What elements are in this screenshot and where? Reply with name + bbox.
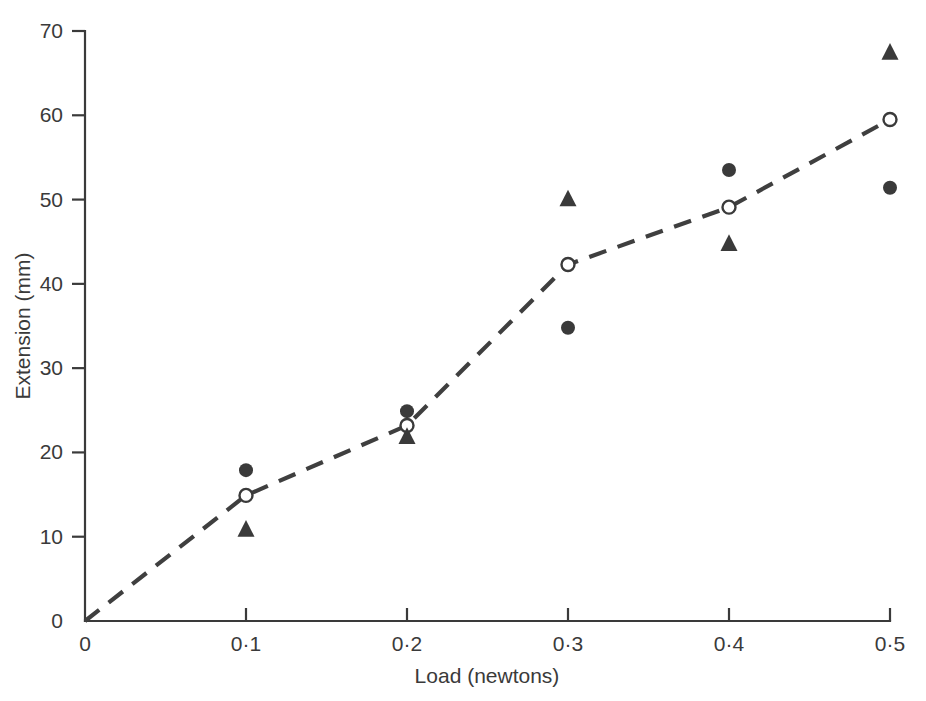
y-tick-labels: 010203040506070 — [40, 19, 63, 632]
data-point-open-circle — [240, 489, 253, 502]
x-tick-label: 0·1 — [231, 632, 261, 655]
x-tick-label: 0·3 — [553, 632, 583, 655]
y-axis-ticks — [72, 31, 85, 537]
y-tick-label: 50 — [40, 188, 63, 211]
y-tick-label: 10 — [40, 525, 63, 548]
data-point-triangle — [238, 520, 255, 537]
data-point-triangle — [721, 234, 738, 251]
data-point-filled-circle — [561, 321, 575, 335]
x-tick-label: 0·2 — [392, 632, 422, 655]
y-tick-label: 40 — [40, 272, 63, 295]
y-tick-label: 0 — [51, 609, 63, 632]
data-point-triangle — [882, 43, 899, 60]
series-dashed-path — [85, 120, 890, 622]
data-point-filled-circle — [400, 404, 414, 418]
x-tick-label: 0·5 — [875, 632, 905, 655]
y-tick-label: 20 — [40, 440, 63, 463]
y-tick-label: 60 — [40, 103, 63, 126]
series-dashed-line — [85, 120, 890, 622]
data-point-open-circle — [562, 258, 575, 271]
data-point-filled-circle — [883, 181, 897, 195]
x-tick-labels: 00·10·20·30·40·5 — [79, 632, 905, 655]
axes-group — [85, 31, 890, 621]
chart-container: 010203040506070 00·10·20·30·40·5 Load (n… — [0, 0, 926, 701]
x-tick-label: 0·4 — [714, 632, 745, 655]
x-axis-ticks — [246, 608, 890, 621]
data-point-filled-circle — [239, 463, 253, 477]
x-axis-title: Load (newtons) — [415, 664, 560, 687]
data-point-triangle — [560, 190, 577, 207]
data-point-open-circle — [884, 113, 897, 126]
x-tick-label: 0 — [79, 632, 91, 655]
data-point-open-circle — [723, 201, 736, 214]
series-markers — [238, 43, 899, 537]
y-tick-label: 30 — [40, 356, 63, 379]
scatter-plot: 010203040506070 00·10·20·30·40·5 Load (n… — [0, 0, 926, 701]
y-axis-title: Extension (mm) — [11, 252, 34, 399]
y-tick-label: 70 — [40, 19, 63, 42]
data-point-filled-circle — [722, 163, 736, 177]
